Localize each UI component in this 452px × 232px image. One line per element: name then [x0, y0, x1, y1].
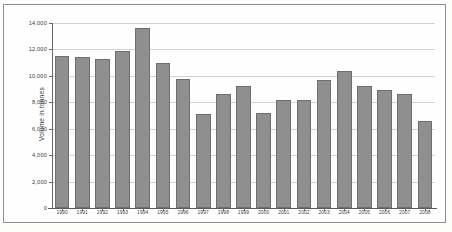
x-tick-label: 2004	[339, 210, 350, 224]
bar-slot	[314, 23, 334, 208]
bar-slot	[334, 23, 354, 208]
x-label-slot: 1996	[173, 210, 193, 224]
x-label-slot: 2001	[274, 210, 294, 224]
bar-slot	[193, 23, 213, 208]
x-label-slot: 1992	[92, 210, 112, 224]
y-tick-label: 12,000	[29, 46, 47, 52]
bar-slot	[233, 23, 253, 208]
bar[interactable]	[337, 71, 352, 208]
x-label-slot: 1994	[133, 210, 153, 224]
y-axis-title: Volume in tonnes	[38, 87, 45, 141]
bar-slot	[274, 23, 294, 208]
bar[interactable]	[75, 57, 90, 208]
y-tick-label: 4,000	[32, 152, 47, 158]
x-tick-label: 1992	[97, 210, 108, 224]
bar-slot	[153, 23, 173, 208]
x-label-slot: 1991	[72, 210, 92, 224]
x-label-slot: 2003	[314, 210, 334, 224]
y-tick-label: 14,000	[29, 20, 47, 26]
x-tick-label: 2000	[258, 210, 269, 224]
x-label-slot: 2005	[354, 210, 374, 224]
bar-slot	[375, 23, 395, 208]
bar[interactable]	[297, 100, 312, 208]
bar-series	[52, 23, 435, 208]
bar[interactable]	[418, 121, 433, 208]
x-tick-label: 2002	[298, 210, 309, 224]
bar[interactable]	[135, 28, 150, 208]
x-label-slot: 2008	[415, 210, 435, 224]
y-tick-label: 2,000	[32, 179, 47, 185]
x-tick-label: 2007	[399, 210, 410, 224]
x-label-slot: 2000	[254, 210, 274, 224]
x-tick-label: 1993	[117, 210, 128, 224]
x-label-slot: 1999	[233, 210, 253, 224]
chart-frame: Volume in tonnes 02,0004,0006,0008,00010…	[3, 4, 446, 223]
bar[interactable]	[236, 86, 251, 208]
x-tick-label: 2001	[278, 210, 289, 224]
bar[interactable]	[357, 86, 372, 208]
x-label-slot: 1990	[52, 210, 72, 224]
x-axis-labels: 1990199119921993199419951996199719981999…	[52, 210, 435, 224]
x-tick-label: 1990	[56, 210, 67, 224]
bar[interactable]	[176, 79, 191, 209]
bar-slot	[92, 23, 112, 208]
x-tick-label: 2008	[419, 210, 430, 224]
x-label-slot: 1993	[112, 210, 132, 224]
bar-slot	[415, 23, 435, 208]
bar-slot	[52, 23, 72, 208]
bar[interactable]	[377, 90, 392, 208]
x-label-slot: 1995	[153, 210, 173, 224]
bar[interactable]	[115, 51, 130, 208]
bar-slot	[354, 23, 374, 208]
y-tick-label: 6,000	[32, 126, 47, 132]
bar-slot	[72, 23, 92, 208]
y-tick-label: 10,000	[29, 73, 47, 79]
bar[interactable]	[196, 114, 211, 208]
x-axis-line	[48, 208, 437, 209]
x-tick-label: 2006	[379, 210, 390, 224]
x-tick-label: 1998	[218, 210, 229, 224]
x-tick-label: 1996	[177, 210, 188, 224]
bar-slot	[173, 23, 193, 208]
y-tick-label: 0	[44, 205, 47, 211]
x-tick-label: 1999	[238, 210, 249, 224]
bar[interactable]	[317, 80, 332, 208]
bar[interactable]	[397, 94, 412, 208]
x-label-slot: 2006	[375, 210, 395, 224]
bar[interactable]	[55, 56, 70, 208]
bar-slot	[294, 23, 314, 208]
y-tick-label: 8,000	[32, 99, 47, 105]
bar[interactable]	[276, 100, 291, 208]
chart-page: Volume in tonnes 02,0004,0006,0008,00010…	[0, 0, 452, 232]
x-label-slot: 2002	[294, 210, 314, 224]
x-label-slot: 1998	[213, 210, 233, 224]
x-tick-label: 2003	[318, 210, 329, 224]
bar[interactable]	[216, 94, 231, 208]
bar-slot	[213, 23, 233, 208]
bar-slot	[254, 23, 274, 208]
bar[interactable]	[156, 63, 171, 208]
x-label-slot: 1997	[193, 210, 213, 224]
bar[interactable]	[256, 113, 271, 208]
plot-area: 02,0004,0006,0008,00010,00012,00014,000	[52, 23, 435, 208]
x-tick-label: 2005	[359, 210, 370, 224]
bar-slot	[395, 23, 415, 208]
bar[interactable]	[95, 59, 110, 208]
x-tick-label: 1994	[137, 210, 148, 224]
x-tick-label: 1997	[198, 210, 209, 224]
x-tick-label: 1995	[157, 210, 168, 224]
bar-slot	[112, 23, 132, 208]
x-label-slot: 2004	[334, 210, 354, 224]
x-tick-label: 1991	[77, 210, 88, 224]
x-label-slot: 2007	[395, 210, 415, 224]
bar-slot	[133, 23, 153, 208]
